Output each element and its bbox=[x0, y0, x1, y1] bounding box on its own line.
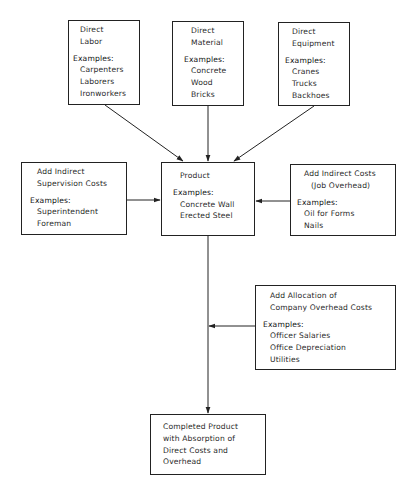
example-item: Utilities bbox=[263, 354, 395, 366]
example-item: Backhoes bbox=[285, 90, 349, 102]
box-title-line: Supervision Costs bbox=[30, 178, 126, 190]
example-item: Concrete Wall bbox=[173, 199, 254, 211]
example-item: Laborers bbox=[73, 76, 139, 88]
example-item: Office Depreciation bbox=[263, 342, 395, 354]
box-title-line: (Job Overhead) bbox=[297, 180, 395, 192]
box-company-overhead: Add Allocation of Company Overhead Costs… bbox=[255, 285, 396, 370]
box-indirect-supervision: Add Indirect Supervision Costs Examples:… bbox=[21, 162, 127, 235]
box-title-line: Direct bbox=[184, 25, 243, 37]
arrow-labor-to-product bbox=[105, 105, 183, 161]
examples-label: Examples: bbox=[297, 197, 395, 209]
examples-label: Examples: bbox=[173, 187, 254, 199]
example-item: Trucks bbox=[285, 78, 349, 90]
box-completed-product: Completed Product with Absorption of Dir… bbox=[150, 414, 266, 475]
example-item: Bricks bbox=[184, 89, 243, 101]
example-item: Ironworkers bbox=[73, 88, 139, 100]
example-item: Officer Salaries bbox=[263, 330, 395, 342]
box-title-line: with Absorption of bbox=[163, 433, 265, 445]
box-title-line: Direct bbox=[285, 26, 349, 38]
examples-label: Examples: bbox=[30, 195, 126, 207]
box-direct-material: Direct Material Examples: Concrete Wood … bbox=[172, 21, 244, 106]
examples-label: Examples: bbox=[285, 55, 349, 67]
example-item: Erected Steel bbox=[173, 210, 254, 222]
box-indirect-job-overhead: Add Indirect Costs (Job Overhead) Exampl… bbox=[290, 164, 396, 236]
box-title-line: Equipment bbox=[285, 38, 349, 50]
example-item: Superintendent bbox=[30, 206, 126, 218]
box-title-line: Labor bbox=[73, 36, 139, 48]
figure-caption-clipped bbox=[0, 488, 260, 494]
box-product: Product Examples: Concrete Wall Erected … bbox=[161, 162, 255, 236]
examples-label: Examples: bbox=[73, 53, 139, 65]
box-title-line: Material bbox=[184, 37, 243, 49]
example-item: Cranes bbox=[285, 66, 349, 78]
example-item: Carpenters bbox=[73, 64, 139, 76]
example-item: Oil for Forms bbox=[297, 208, 395, 220]
box-direct-equipment: Direct Equipment Examples: Cranes Trucks… bbox=[278, 22, 350, 106]
example-item: Nails bbox=[297, 220, 395, 232]
box-title-line: Completed Product bbox=[163, 421, 265, 433]
box-title-line: Direct bbox=[73, 24, 139, 36]
box-title-line: Add Allocation of bbox=[263, 290, 395, 302]
box-title-line: Add Indirect bbox=[30, 166, 126, 178]
example-item: Foreman bbox=[30, 218, 126, 230]
example-item: Concrete bbox=[184, 65, 243, 77]
box-direct-labor: Direct Labor Examples: Carpenters Labore… bbox=[68, 20, 140, 105]
box-title-line: Add Indirect Costs bbox=[297, 168, 395, 180]
example-item: Wood bbox=[184, 77, 243, 89]
examples-label: Examples: bbox=[184, 54, 243, 66]
box-title-line: Direct Costs and bbox=[163, 445, 265, 457]
arrow-equipment-to-product bbox=[234, 106, 314, 161]
examples-label: Examples: bbox=[263, 319, 395, 331]
box-title-line: Product bbox=[173, 170, 254, 182]
box-title-line: Company Overhead Costs bbox=[263, 302, 395, 314]
box-title-line: Overhead bbox=[163, 456, 265, 468]
